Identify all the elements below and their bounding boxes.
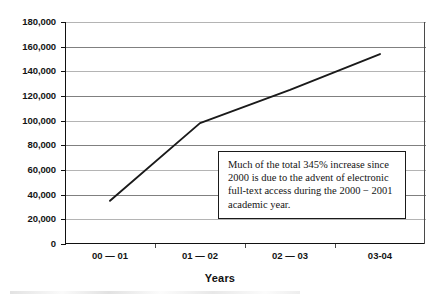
gridline bbox=[66, 219, 426, 220]
annotation-line-1: Much of the total 345% increase since bbox=[228, 158, 396, 171]
y-axis-tick-label: 100,000 bbox=[0, 115, 56, 126]
annotation-line-3: full-text access during the 2000 − 2001 bbox=[228, 184, 396, 197]
x-axis-title: Years bbox=[0, 272, 440, 284]
y-axis-tick bbox=[61, 244, 66, 245]
y-axis-tick-label: 140,000 bbox=[0, 65, 56, 76]
y-axis-tick bbox=[61, 121, 66, 122]
y-axis-tick-label: 120,000 bbox=[0, 90, 56, 101]
scan-artifact bbox=[10, 291, 300, 294]
y-axis-tick bbox=[61, 219, 66, 220]
y-axis-tick-label: 0 bbox=[0, 238, 56, 249]
annotation-callout: Much of the total 345% increase since 20… bbox=[218, 151, 406, 219]
gridline bbox=[66, 22, 426, 23]
y-axis-tick-label: 20,000 bbox=[0, 213, 56, 224]
gridline bbox=[66, 145, 426, 146]
y-axis-tick bbox=[61, 96, 66, 97]
plot-right-border bbox=[424, 22, 425, 244]
y-axis-tick bbox=[61, 47, 66, 48]
gridline bbox=[66, 96, 426, 97]
gridline bbox=[66, 121, 426, 122]
x-axis-tick bbox=[245, 244, 246, 248]
gridline bbox=[66, 47, 426, 48]
y-axis-tick-label: 40,000 bbox=[0, 189, 56, 200]
chart-figure: 020,00040,00060,00080,000100,000120,0001… bbox=[0, 0, 440, 298]
y-axis-tick-label: 60,000 bbox=[0, 164, 56, 175]
x-axis-tick-label: 01 — 02 bbox=[160, 250, 240, 261]
y-axis-tick bbox=[61, 145, 66, 146]
x-axis-tick-label: 02 — 03 bbox=[250, 250, 330, 261]
y-axis-tick bbox=[61, 170, 66, 171]
x-axis-tick bbox=[335, 244, 336, 248]
annotation-line-4: academic year. bbox=[228, 198, 396, 211]
gridline bbox=[66, 71, 426, 72]
y-axis-tick bbox=[61, 71, 66, 72]
x-axis-tick-label: 00 — 01 bbox=[70, 250, 150, 261]
x-axis-tick-label: 03-04 bbox=[340, 250, 420, 261]
y-axis-tick bbox=[61, 195, 66, 196]
y-axis-tick-label: 80,000 bbox=[0, 139, 56, 150]
y-axis-tick bbox=[61, 22, 66, 23]
annotation-line-2: 2000 is due to the advent of electronic bbox=[228, 171, 396, 184]
x-axis-tick bbox=[155, 244, 156, 248]
y-axis-tick-label: 180,000 bbox=[0, 16, 56, 27]
y-axis-tick-label: 160,000 bbox=[0, 41, 56, 52]
